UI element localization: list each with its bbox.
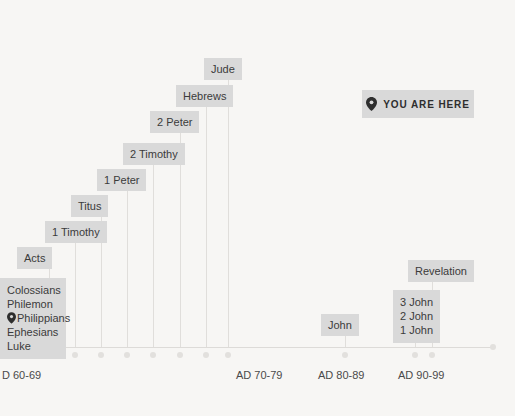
timeline-event-line: 1 Peter xyxy=(104,173,139,187)
timeline-axis-end-dot xyxy=(490,344,496,350)
timeline-event-line: 2 John xyxy=(400,309,433,323)
timeline-tick-dot xyxy=(150,352,156,358)
timeline-event-label-jude[interactable]: Jude xyxy=(204,58,242,80)
timeline-stem xyxy=(345,336,346,347)
timeline-tick-dot xyxy=(342,352,348,358)
you-are-here-label: YOU ARE HERE xyxy=(383,99,470,110)
timeline-chart: ColossiansPhilemonPhilippiansEphesiansLu… xyxy=(0,0,515,416)
timeline-stem xyxy=(153,165,154,347)
you-are-here-badge[interactable]: YOU ARE HERE xyxy=(362,90,474,118)
timeline-tick-dot xyxy=(124,352,130,358)
timeline-tick-dot xyxy=(429,352,435,358)
timeline-event-line: 1 John xyxy=(400,323,433,337)
timeline-tick-dot xyxy=(203,352,209,358)
map-pin-icon xyxy=(7,312,16,324)
axis-tick-label: AD 90-99 xyxy=(398,369,444,381)
timeline-event-line: Luke xyxy=(7,339,59,353)
timeline-event-line: Colossians xyxy=(7,283,59,297)
timeline-tick-dot xyxy=(72,352,78,358)
timeline-event-line: Acts xyxy=(24,251,45,265)
timeline-event-line: Ephesians xyxy=(7,325,59,339)
timeline-event-label-1-peter[interactable]: 1 Peter xyxy=(97,169,146,191)
timeline-event-label-revelation[interactable]: Revelation xyxy=(408,260,474,282)
timeline-event-label-hebrews[interactable]: Hebrews xyxy=(176,85,233,107)
timeline-event-label-2-timothy[interactable]: 2 Timothy xyxy=(123,143,185,165)
timeline-event-label-luke-group[interactable]: ColossiansPhilemonPhilippiansEphesiansLu… xyxy=(0,278,66,359)
timeline-stem xyxy=(127,191,128,347)
timeline-tick-dot xyxy=(177,352,183,358)
axis-tick-label: D 60-69 xyxy=(2,369,41,381)
timeline-axis-line xyxy=(0,347,494,348)
timeline-event-label-acts[interactable]: Acts xyxy=(17,247,52,269)
axis-tick-label: AD 70-79 xyxy=(236,369,282,381)
timeline-event-line: Titus xyxy=(78,199,101,213)
timeline-stem xyxy=(75,243,76,347)
timeline-event-label-titus[interactable]: Titus xyxy=(71,195,108,217)
timeline-event-line: 3 John xyxy=(400,295,433,309)
timeline-event-line: John xyxy=(328,318,352,332)
timeline-tick-dot xyxy=(412,352,418,358)
timeline-event-line: 2 Timothy xyxy=(130,147,178,161)
timeline-event-line: Philemon xyxy=(7,297,59,311)
timeline-event-label-1-timothy[interactable]: 1 Timothy xyxy=(45,221,107,243)
timeline-stem xyxy=(180,133,181,347)
map-pin-icon xyxy=(366,97,377,111)
timeline-tick-dot xyxy=(225,352,231,358)
timeline-event-line: Hebrews xyxy=(183,89,226,103)
timeline-event-line: Revelation xyxy=(415,264,467,278)
timeline-event-label-john[interactable]: John xyxy=(321,314,359,336)
timeline-event-line: 2 Peter xyxy=(157,115,192,129)
timeline-stem xyxy=(206,107,207,347)
timeline-event-label-2-peter[interactable]: 2 Peter xyxy=(150,111,199,133)
timeline-event-line: 1 Timothy xyxy=(52,225,100,239)
timeline-stem xyxy=(228,80,229,347)
timeline-event-label-johannine-letters[interactable]: 3 John2 John1 John xyxy=(393,290,440,343)
timeline-event-line: Jude xyxy=(211,62,235,76)
timeline-event-line: Philippians xyxy=(7,311,59,325)
axis-tick-label: AD 80-89 xyxy=(318,369,364,381)
timeline-tick-dot xyxy=(98,352,104,358)
